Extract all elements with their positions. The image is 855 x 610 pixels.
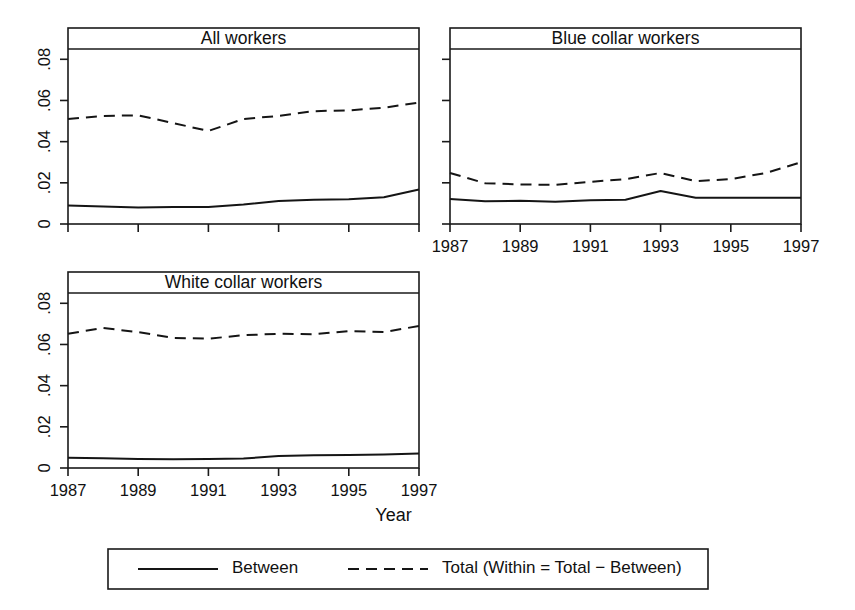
series-between	[450, 191, 801, 202]
x-tick-label: 1991	[190, 481, 227, 499]
x-tick-label: 1995	[330, 481, 367, 499]
y-tick-label: .02	[35, 415, 53, 438]
panel-blue-collar-workers: Blue collar workers198719891991199319951…	[432, 28, 820, 255]
legend-label-0: Between	[232, 558, 298, 577]
x-tick-label: 1991	[572, 237, 609, 255]
y-tick-label: .08	[35, 292, 53, 315]
series-between	[68, 189, 419, 207]
panel-frame	[68, 28, 419, 224]
multi-panel-line-chart: All workers0.02.04.06.08Blue collar work…	[0, 0, 855, 610]
y-tick-label: .04	[35, 374, 53, 397]
legend-label-1: Total (Within = Total − Between)	[442, 558, 682, 577]
panel-frame	[68, 272, 419, 468]
x-tick-label: 1997	[783, 237, 820, 255]
figure-root: All workers0.02.04.06.08Blue collar work…	[0, 0, 855, 610]
x-tick-label: 1987	[432, 237, 469, 255]
series-total	[68, 103, 419, 131]
series-total	[68, 326, 419, 339]
x-tick-label: 1987	[50, 481, 87, 499]
x-tick-label: 1993	[260, 481, 297, 499]
panel-title: White collar workers	[165, 272, 323, 292]
series-total	[450, 162, 801, 185]
x-tick-label: 1997	[401, 481, 438, 499]
x-axis-title: Year	[375, 505, 411, 525]
x-tick-label: 1989	[502, 237, 539, 255]
y-tick-label: 0	[35, 219, 53, 228]
y-tick-label: .02	[35, 171, 53, 194]
legend: BetweenTotal (Within = Total − Between)	[108, 549, 708, 589]
y-tick-label: .06	[35, 89, 53, 112]
x-tick-label: 1995	[712, 237, 749, 255]
panel-white-collar-workers: White collar workers0.02.04.06.081987198…	[35, 272, 437, 499]
panel-all-workers: All workers0.02.04.06.08	[35, 28, 419, 232]
panel-frame	[450, 28, 801, 224]
y-tick-label: .04	[35, 130, 53, 153]
x-tick-label: 1993	[642, 237, 679, 255]
x-tick-label: 1989	[120, 481, 157, 499]
panel-title: Blue collar workers	[552, 28, 700, 48]
y-tick-label: .08	[35, 48, 53, 71]
y-tick-label: 0	[35, 463, 53, 472]
panel-title: All workers	[201, 28, 287, 48]
y-tick-label: .06	[35, 333, 53, 356]
series-between	[68, 454, 419, 460]
